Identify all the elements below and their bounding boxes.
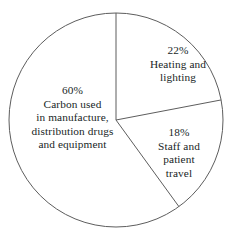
- slice-desc-travel-line-1: Staff and: [143, 140, 215, 154]
- slice-desc-travel-line-2: patient: [143, 153, 215, 167]
- slice-percent-heating: 22%: [130, 44, 226, 58]
- slice-label-carbon: 60% Carbon used in manufacture, distribu…: [6, 84, 139, 152]
- slice-percent-travel: 18%: [143, 126, 215, 140]
- slice-percent-carbon: 60%: [6, 84, 139, 98]
- slice-desc-carbon-line-4: and equipment: [6, 138, 139, 152]
- slice-desc-carbon-line-1: Carbon used: [6, 98, 139, 112]
- slice-desc-carbon-line-2: in manufacture,: [6, 111, 139, 125]
- slice-desc-heating-line-1: Heating and: [130, 58, 226, 72]
- slice-desc-travel-line-3: travel: [143, 167, 215, 181]
- slice-desc-carbon-line-3: distribution drugs: [6, 125, 139, 139]
- slice-desc-heating-line-2: lighting: [130, 71, 226, 85]
- slice-label-heating: 22% Heating and lighting: [130, 44, 226, 85]
- slice-label-travel: 18% Staff and patient travel: [143, 126, 215, 180]
- pie-chart: 60% Carbon used in manufacture, distribu…: [0, 0, 231, 242]
